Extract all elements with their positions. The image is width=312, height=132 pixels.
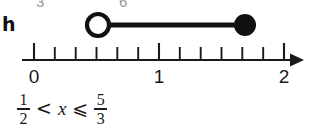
interval-endpoint-closed [234, 14, 256, 36]
axis-label-2: 2 [279, 66, 290, 88]
fraction-numerator: 1 [18, 92, 30, 107]
interval-endpoint-open [87, 14, 109, 36]
inequality-expression: 1 2 < x ⩽ 5 3 [16, 92, 108, 126]
axis-label-0: 0 [29, 66, 40, 88]
fraction-denominator: 3 [95, 111, 107, 126]
fraction-one-half: 1 2 [17, 92, 30, 126]
axis-label-1: 1 [154, 66, 165, 88]
number-line-figure: 3 6 h 0 [0, 0, 312, 132]
axis-major-ticks [34, 43, 284, 60]
fraction-denominator: 2 [18, 111, 30, 126]
fraction-five-thirds: 5 3 [94, 92, 107, 126]
variable-x: x [58, 99, 66, 118]
axis-arrow-icon [290, 54, 304, 67]
fraction-numerator: 5 [95, 92, 107, 107]
operator-less-than: < [36, 99, 52, 118]
operator-less-than-or-equal: ⩽ [72, 99, 88, 118]
